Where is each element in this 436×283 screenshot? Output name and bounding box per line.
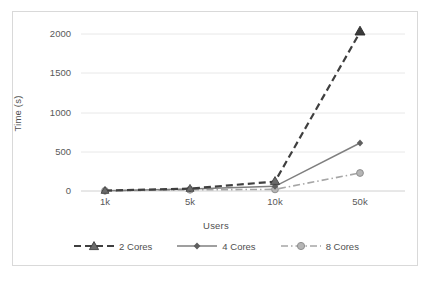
- legend-marker-triangle-icon: [73, 240, 115, 252]
- chart-legend: 2 Cores 4 Cores 8 Cores: [13, 240, 419, 252]
- legend-marker-diamond-icon: [176, 240, 218, 252]
- gridlines: [81, 34, 405, 191]
- x-axis-title: Users: [13, 220, 419, 231]
- legend-item-8-cores[interactable]: 8 Cores: [280, 240, 359, 252]
- chart-figure: 2000 1500 1000 500 0 Time (s): [0, 0, 436, 283]
- legend-marker-circle-icon: [280, 240, 322, 252]
- legend-item-4-cores[interactable]: 4 Cores: [176, 240, 255, 252]
- legend-label-8-cores: 8 Cores: [326, 241, 359, 252]
- legend-item-2-cores[interactable]: 2 Cores: [73, 240, 152, 252]
- x-tick-label-5k: 5k: [170, 196, 210, 207]
- x-tick-label-10k: 10k: [255, 196, 295, 207]
- series-2-cores: [101, 26, 365, 193]
- x-tick-label-50k: 50k: [340, 196, 380, 207]
- legend-label-2-cores: 2 Cores: [119, 241, 152, 252]
- legend-label-4-cores: 4 Cores: [222, 241, 255, 252]
- x-tick-label-1k: 1k: [85, 196, 125, 207]
- chart-plot-frame: 2000 1500 1000 500 0 Time (s): [12, 11, 418, 266]
